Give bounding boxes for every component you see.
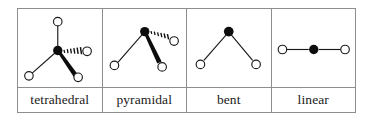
figure-root: tetrahedral pyramidal bent linear: [0, 0, 372, 121]
central-atom: [53, 46, 62, 55]
outer-atom-lower-right: [157, 63, 166, 72]
bond-hashed-wedge-icon: [151, 31, 169, 39]
linear-structure-icon: [272, 9, 356, 87]
outer-atom-right: [83, 47, 92, 56]
outer-atom-right: [340, 45, 349, 54]
outer-atom-top: [53, 17, 62, 26]
bond-plain-right: [230, 34, 252, 61]
diagram-cell-pyramidal: [103, 9, 188, 87]
label-text-linear: linear: [298, 92, 329, 108]
outer-atom-lower-left: [25, 72, 34, 81]
label-cell-pyramidal: pyramidal: [103, 88, 188, 112]
label-cell-linear: linear: [272, 88, 356, 112]
outer-atom-right: [252, 60, 261, 69]
outer-atom-lower-left: [110, 61, 119, 70]
label-text-tetrahedral: tetrahedral: [30, 92, 89, 108]
central-atom: [224, 27, 234, 37]
label-text-pyramidal: pyramidal: [116, 92, 172, 108]
diagram-cell-tetrahedral: [18, 9, 103, 87]
outer-atom-left: [196, 60, 205, 69]
bond-plain-lower-left: [32, 50, 58, 73]
bond-plain-left: [204, 34, 227, 61]
central-atom: [140, 27, 149, 36]
outer-atom-lower-right: [74, 73, 83, 82]
pyramidal-structure-icon: [103, 9, 187, 87]
bent-structure-icon: [187, 9, 271, 87]
label-cell-tetrahedral: tetrahedral: [18, 88, 103, 112]
diagram-cell-linear: [272, 9, 356, 87]
diagram-cell-bent: [187, 9, 272, 87]
tetrahedral-structure-icon: [18, 9, 102, 87]
label-text-bent: bent: [217, 92, 241, 108]
label-cell-bent: bent: [187, 88, 272, 112]
bond-hashed-wedge-icon: [64, 47, 81, 54]
bond-plain-lower-left: [117, 32, 144, 63]
geometry-table: tetrahedral pyramidal bent linear: [17, 8, 356, 113]
label-row: tetrahedral pyramidal bent linear: [18, 88, 355, 112]
outer-atom-left: [278, 45, 287, 54]
outer-atom-right: [169, 37, 178, 46]
diagram-row: [18, 9, 355, 88]
central-atom: [309, 45, 318, 54]
